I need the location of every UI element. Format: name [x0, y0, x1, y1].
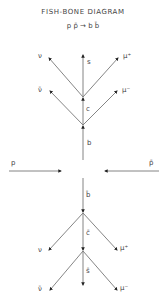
- nubar-lower-label: ν̄: [38, 286, 42, 293]
- fishbone-diagram: [0, 0, 166, 298]
- muminus-lower-label: μ⁻: [120, 285, 128, 292]
- muplus-lower-label: μ⁺: [120, 245, 128, 252]
- proton-label: p: [11, 160, 15, 167]
- cbar-quark-label: c̄: [86, 230, 90, 237]
- antiproton-label: p̄: [149, 160, 153, 167]
- muminus-upper-label: μ⁻: [122, 87, 130, 94]
- bbar-quark-label: b̄: [86, 192, 90, 199]
- b-quark-label: b: [87, 140, 91, 147]
- nu-upper-line: [49, 58, 83, 97]
- nubar-lower-line: [50, 251, 83, 290]
- s-quark-label: s: [87, 59, 91, 66]
- nu-lower-line: [49, 213, 83, 250]
- nu-upper-label: ν: [38, 53, 42, 60]
- sbar-quark-label: s̄: [86, 268, 90, 275]
- c-quark-label: c: [86, 106, 90, 113]
- nubar-upper-label: ν̄: [38, 87, 42, 94]
- muplus-upper-label: μ⁺: [123, 53, 131, 60]
- nubar-upper-line: [50, 91, 83, 125]
- nu-lower-label: ν: [38, 247, 42, 254]
